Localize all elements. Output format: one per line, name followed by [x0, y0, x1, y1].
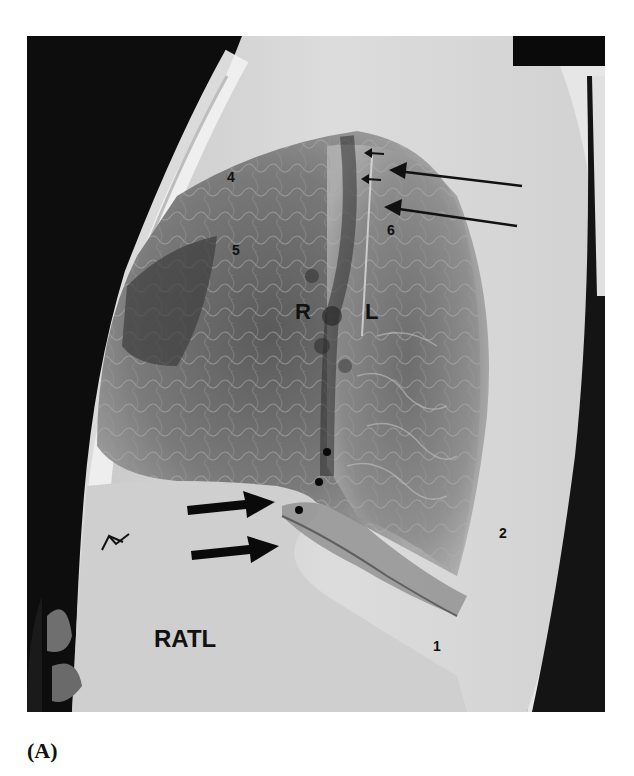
radiograph-figure: 4 5 6 R L 2 1 RATL: [27, 36, 605, 712]
label-5: 5: [232, 243, 240, 257]
label-6: 6: [387, 223, 395, 237]
label-2: 2: [499, 526, 507, 540]
label-4: 4: [227, 170, 235, 184]
label-ratl: RATL: [154, 627, 216, 651]
label-1: 1: [433, 639, 441, 653]
radiograph-image: [27, 36, 605, 712]
label-left: L: [365, 301, 378, 323]
figure-caption: (A): [27, 738, 58, 764]
label-right: R: [295, 301, 311, 323]
